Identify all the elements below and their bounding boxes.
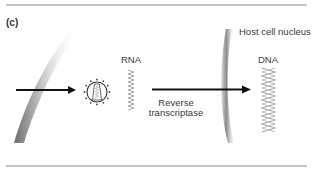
enzyme-label-line2: transcriptase xyxy=(145,108,207,118)
retrovirus-icon xyxy=(84,79,111,106)
nucleus-label: Host cell nucleus xyxy=(239,27,311,37)
dna-helix-icon xyxy=(262,68,275,132)
diagram-panel-c: (c) RNA Host cell nucleus DNA Reverse tr… xyxy=(0,0,316,169)
panel-label: (c) xyxy=(6,18,18,28)
rna-label: RNA xyxy=(121,55,141,65)
entry-arrow xyxy=(16,86,76,94)
nuclear-membrane-icon xyxy=(221,29,234,143)
transcription-arrow xyxy=(152,86,251,94)
dna-label: DNA xyxy=(258,55,278,65)
rna-strand-icon xyxy=(128,70,134,110)
